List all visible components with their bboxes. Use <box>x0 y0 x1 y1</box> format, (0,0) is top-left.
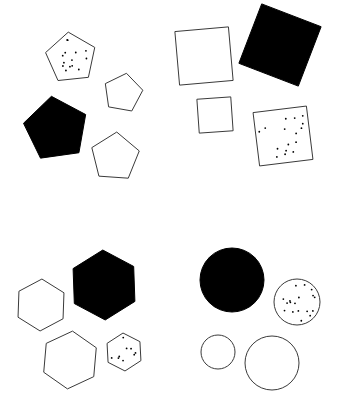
stipple-dot <box>78 69 80 71</box>
shape-outline <box>92 132 139 178</box>
stipple-dot <box>295 132 297 134</box>
stipple-dot <box>311 289 313 291</box>
stipple-dot <box>122 337 124 339</box>
shape-hexagon-solid <box>73 250 135 320</box>
stipple-dot <box>295 141 297 143</box>
shape-outline <box>73 250 135 320</box>
stipple-dot <box>287 144 289 146</box>
stipple-dot <box>276 156 278 158</box>
shape-hexagon-dotted <box>107 333 141 371</box>
stipple-dot <box>309 315 311 317</box>
shape-canvas <box>0 0 338 403</box>
stipple-dot <box>117 357 119 359</box>
stipple-dot <box>314 296 316 298</box>
shape-outline <box>200 248 264 312</box>
shape-circle-outline-small <box>201 335 235 369</box>
shape-outline <box>201 335 235 369</box>
shape-hexagon-outline-bottom <box>44 331 97 389</box>
shape-outline <box>44 331 97 389</box>
stipple-dot <box>298 297 300 299</box>
shape-square-outline-large <box>175 27 233 85</box>
stipple-dot <box>302 115 304 117</box>
shape-circle-dotted <box>274 279 320 325</box>
shape-outline <box>197 97 233 133</box>
shape-pentagon-solid <box>24 96 86 158</box>
stipple-dot <box>294 302 296 304</box>
stipple-dot <box>295 285 297 287</box>
stipple-dot <box>133 354 135 356</box>
stipple-dot <box>258 131 260 133</box>
shape-hexagon-outline-left <box>18 279 64 331</box>
stipple-dot <box>300 320 302 322</box>
shape-pentagon-dotted <box>46 32 95 80</box>
shape-outline <box>239 4 321 86</box>
shape-pentagon-outline-large <box>92 132 139 178</box>
shape-circle-solid <box>200 248 264 312</box>
shape-outline <box>253 106 313 166</box>
stipple-dot <box>284 128 286 130</box>
stipple-dot <box>65 70 67 72</box>
shape-grid-panel <box>0 0 338 403</box>
stipple-dot <box>285 150 287 152</box>
stipple-dot <box>277 148 279 150</box>
stipple-dot <box>130 348 132 350</box>
stipple-dot <box>135 352 137 354</box>
stipple-dot <box>282 298 284 300</box>
stipple-dot <box>264 127 266 129</box>
stipple-dot <box>312 295 314 297</box>
stipple-dot <box>126 348 128 350</box>
shape-outline <box>245 336 299 390</box>
stipple-dot <box>69 66 71 68</box>
stipple-dot <box>71 65 73 67</box>
stipple-dot <box>122 360 124 362</box>
stipple-dot <box>289 301 291 303</box>
stipple-dot <box>62 65 64 67</box>
stipple-dot <box>297 310 299 312</box>
shape-outline <box>46 32 95 80</box>
shape-outline <box>107 333 141 371</box>
stipple-dot <box>71 59 73 61</box>
stipple-dot <box>292 311 294 313</box>
stipple-dot <box>85 50 87 52</box>
stipple-dot <box>75 52 77 54</box>
shape-outline <box>24 96 86 158</box>
stipple-dot <box>64 52 66 54</box>
stipple-dot <box>285 118 287 120</box>
shape-pentagon-outline-small <box>105 73 142 111</box>
stipple-dot <box>292 151 294 153</box>
shape-square-solid <box>239 4 321 86</box>
shape-outline <box>274 279 320 325</box>
shape-outline <box>18 279 64 331</box>
stipple-dot <box>304 284 306 286</box>
stipple-dot <box>294 117 296 119</box>
stipple-dot <box>63 62 65 64</box>
stipple-dot <box>86 58 88 60</box>
stipple-dot <box>118 356 120 358</box>
stipple-dot <box>306 310 308 312</box>
shape-outline <box>175 27 233 85</box>
stipple-dot <box>302 123 304 125</box>
stipple-dot <box>284 153 286 155</box>
stipple-dot <box>301 127 303 129</box>
shape-outline <box>105 73 142 111</box>
stipple-dot <box>284 310 286 312</box>
shape-square-outline-small <box>197 97 233 133</box>
stipple-dot <box>62 55 64 57</box>
stipple-dot <box>312 310 314 312</box>
stipple-dot <box>67 39 69 41</box>
shape-circle-outline-large <box>245 336 299 390</box>
stipple-dot <box>286 302 288 304</box>
stipple-dot <box>111 357 113 359</box>
shape-square-dotted <box>253 106 313 166</box>
